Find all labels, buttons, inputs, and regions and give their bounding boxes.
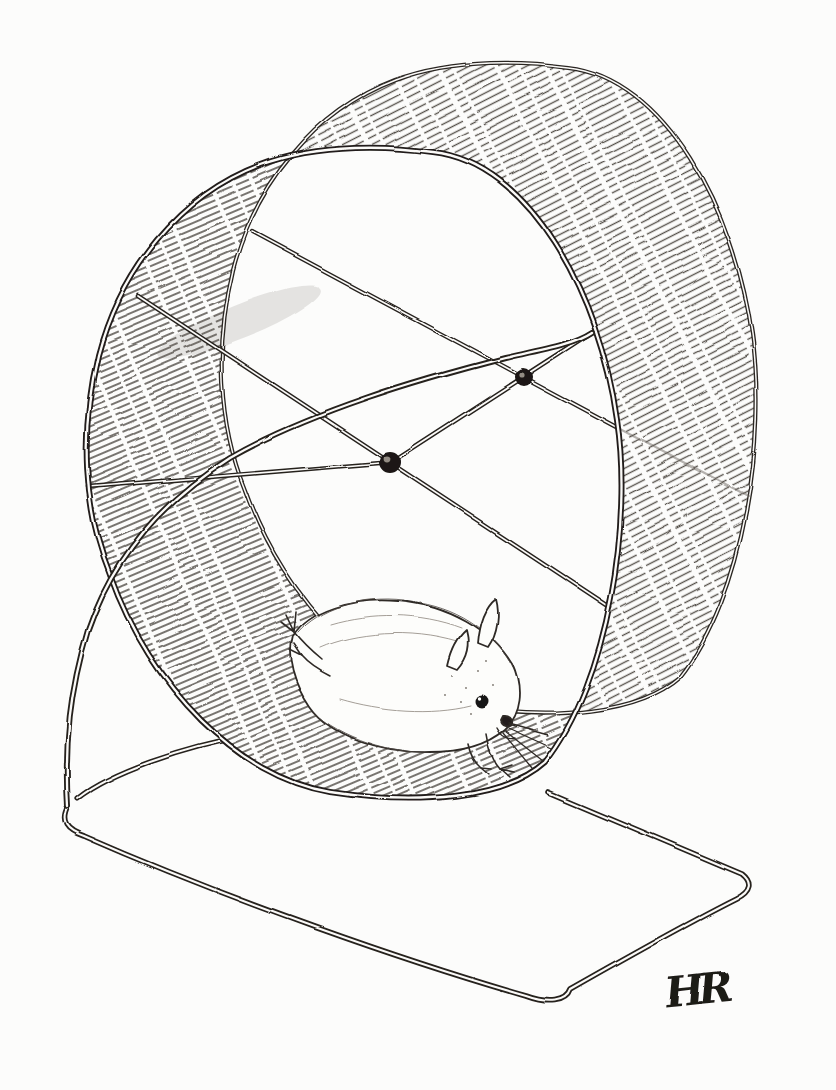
back-hub bbox=[514, 368, 532, 386]
hamster-wheel-drawing: HR bbox=[0, 0, 836, 1090]
illustration-page: HR bbox=[0, 0, 836, 1090]
front-hub bbox=[379, 451, 401, 473]
hamster-eye bbox=[475, 696, 488, 709]
svg-text:HR: HR bbox=[662, 962, 733, 1018]
artist-signature: HR bbox=[662, 962, 733, 1018]
